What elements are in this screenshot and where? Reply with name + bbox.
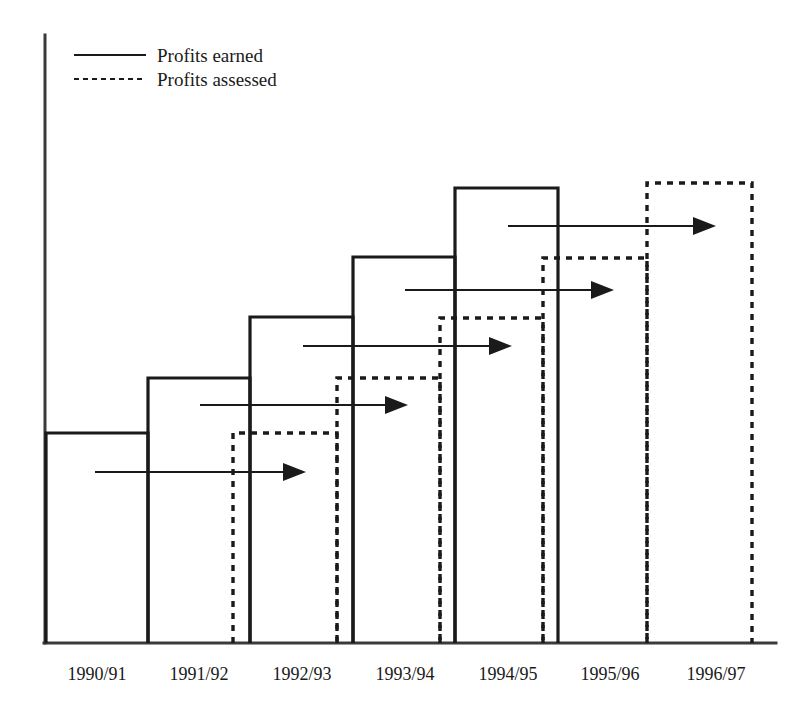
bar-earned-1990-91	[46, 433, 148, 643]
lag-arrow-head-3	[489, 337, 512, 355]
x-label-1992-93: 1992/93	[272, 664, 331, 684]
lag-arrow-head-4	[591, 281, 614, 299]
profits-earned-vs-assessed-chart: Profits earned Profits assessed	[0, 0, 810, 724]
x-label-1993-94: 1993/94	[375, 664, 434, 684]
chart-axes	[44, 35, 776, 643]
lag-arrow-1990-91-to-1992-93	[95, 463, 306, 481]
chart-canvas: Profits earned Profits assessed	[0, 0, 810, 724]
legend-item-profits-earned: Profits earned	[74, 45, 264, 66]
series-profits-assessed-bars	[233, 183, 752, 643]
bar-assessed-1996-97	[647, 183, 752, 643]
lag-arrow-1994-95-to-1996-97	[508, 217, 716, 235]
legend-label-profits-earned: Profits earned	[157, 45, 264, 66]
lag-arrow-head-2	[385, 396, 408, 414]
lag-arrow-1993-94-to-1995-96	[405, 281, 614, 299]
x-label-1991-92: 1991/92	[169, 664, 228, 684]
legend-label-profits-assessed: Profits assessed	[157, 69, 277, 90]
x-label-1995-96: 1995/96	[580, 664, 639, 684]
x-label-1996-97: 1996/97	[686, 664, 745, 684]
lag-arrow-head-1	[283, 463, 306, 481]
lag-arrow-1991-92-to-1993-94	[200, 396, 408, 414]
x-label-1994-95: 1994/95	[478, 664, 537, 684]
x-axis-category-labels: 1990/91 1991/92 1992/93 1993/94 1994/95 …	[67, 664, 745, 684]
legend-item-profits-assessed: Profits assessed	[74, 69, 277, 90]
series-profits-earned-bars	[46, 188, 558, 643]
lag-arrow-1992-93-to-1994-95	[303, 337, 512, 355]
chart-legend: Profits earned Profits assessed	[74, 45, 277, 90]
lag-arrow-head-5	[693, 217, 716, 235]
x-label-1990-91: 1990/91	[67, 664, 126, 684]
